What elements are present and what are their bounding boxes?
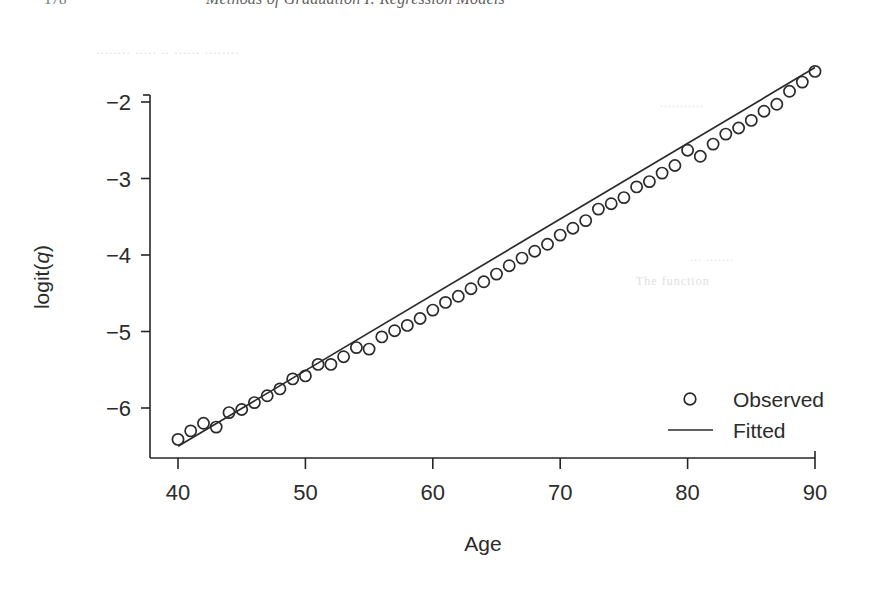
data-point-observed (185, 425, 196, 436)
x-tick-label: 70 (548, 480, 572, 505)
data-point-observed (580, 215, 591, 226)
data-point-observed (364, 344, 375, 355)
data-point-observed (351, 342, 362, 353)
x-tick-label: 60 (421, 480, 445, 505)
data-point-observed (797, 77, 808, 88)
y-tick-label: −6 (106, 396, 131, 421)
data-point-observed (606, 198, 617, 209)
legend-label-fitted: Fitted (733, 419, 786, 442)
x-tick-label: 90 (803, 480, 827, 505)
y-tick-label: −3 (106, 167, 131, 192)
data-point-observed (529, 246, 540, 257)
data-point-observed (746, 115, 757, 126)
figure-logit-q-vs-age: −2−3−4−5−6 405060708090 Age logit(q) Obs… (0, 0, 869, 598)
data-point-observed (708, 139, 719, 150)
data-point-observed (555, 230, 566, 241)
data-point-observed (644, 176, 655, 187)
y-tick-label: −4 (106, 243, 131, 268)
data-point-observed (631, 181, 642, 192)
data-point-observed (771, 99, 782, 110)
legend-label-observed: Observed (733, 388, 824, 411)
data-point-observed (415, 313, 426, 324)
data-point-observed (325, 359, 336, 370)
data-point-observed (491, 269, 502, 280)
data-point-observed (695, 151, 706, 162)
data-point-observed (542, 239, 553, 250)
data-point-observed (784, 86, 795, 97)
legend: Observed Fitted (668, 388, 824, 442)
y-tick-label: −5 (106, 320, 131, 345)
data-point-observed (427, 305, 438, 316)
y-axis-ticks: −2−3−4−5−6 (106, 90, 150, 421)
x-axis-title: Age (464, 532, 501, 555)
data-point-observed (733, 122, 744, 133)
y-axis-title: logit(q) (30, 245, 53, 309)
data-point-observed (236, 404, 247, 415)
data-point-observed (478, 276, 489, 287)
data-point-observed (504, 260, 515, 271)
data-point-observed (682, 145, 693, 156)
data-point-observed (402, 320, 413, 331)
data-point-observed (389, 325, 400, 336)
legend-observed-circle-icon (684, 393, 696, 405)
data-point-observed (300, 370, 311, 381)
data-point-observed (567, 223, 578, 234)
data-point-observed (593, 204, 604, 215)
data-point-observed (809, 66, 820, 77)
x-tick-label: 50 (293, 480, 317, 505)
data-point-observed (516, 253, 527, 264)
y-tick-label: −2 (106, 90, 131, 115)
data-point-observed (758, 106, 769, 117)
data-point-observed (720, 129, 731, 140)
data-point-observed (440, 297, 451, 308)
data-point-observed (618, 192, 629, 203)
data-point-observed (453, 291, 464, 302)
data-point-observed (657, 168, 668, 179)
x-axis-ticks: 405060708090 (166, 458, 827, 505)
x-tick-label: 80 (675, 480, 699, 505)
data-point-observed (198, 418, 209, 429)
data-point-observed (172, 434, 183, 445)
plot-canvas: −2−3−4−5−6 405060708090 Age logit(q) Obs… (0, 0, 869, 598)
data-point-observed (338, 351, 349, 362)
data-point-observed (376, 331, 387, 342)
data-point-observed (465, 283, 476, 294)
x-tick-label: 40 (166, 480, 190, 505)
data-point-observed (669, 160, 680, 171)
